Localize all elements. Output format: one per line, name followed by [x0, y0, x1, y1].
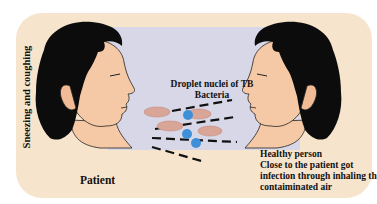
healthy-line1: Close to the patient got [260, 160, 376, 171]
healthy-line3: contaiminated air [260, 182, 376, 193]
sneezing-coughing-label: Sneezing and coughing [21, 42, 33, 152]
healthy-title: Healthy person [260, 149, 376, 160]
droplet-label-line1: Droplet nuclei of TB [150, 79, 274, 90]
healthy-line2: infection through inhaling the [260, 171, 376, 182]
patient-head-icon [36, 22, 135, 148]
tb-transmission-diagram: Droplet nuclei of TB Bacteria Sneezing a… [0, 0, 377, 204]
droplet-label-line2: Bacteria [150, 90, 274, 101]
healthy-person-description: Healthy person Close to the patient got … [260, 149, 376, 193]
droplet-nuclei-label: Droplet nuclei of TB Bacteria [150, 79, 274, 101]
patient-label: Patient [80, 174, 115, 187]
